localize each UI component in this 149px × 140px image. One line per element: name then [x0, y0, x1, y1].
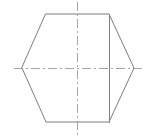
technical-drawing-svg: [0, 0, 149, 140]
drawing-canvas: [0, 0, 149, 140]
